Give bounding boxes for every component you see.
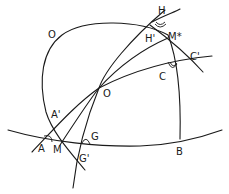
label-A-prime: A'	[51, 109, 61, 120]
angle-mark-H-2	[156, 22, 165, 25]
label-A: A	[38, 143, 45, 154]
label-M: M	[53, 144, 62, 155]
line-M-O-Mstar	[60, 38, 168, 145]
line-H-top	[152, 9, 180, 22]
label-O-top: O	[48, 29, 56, 40]
label-M-star: M*	[168, 31, 182, 42]
label-G: G	[91, 131, 99, 142]
label-C: C	[159, 71, 166, 82]
geometry-diagram: O O H H' M* C' C A' A M G G' B	[0, 0, 229, 194]
label-O-center: O	[103, 88, 111, 99]
label-C-prime: C'	[190, 51, 200, 62]
label-H-prime: H'	[145, 33, 155, 44]
great-circle-arc-main	[42, 23, 180, 170]
label-B: B	[176, 146, 183, 157]
label-H: H	[158, 5, 166, 16]
label-G-prime: G'	[79, 153, 90, 164]
